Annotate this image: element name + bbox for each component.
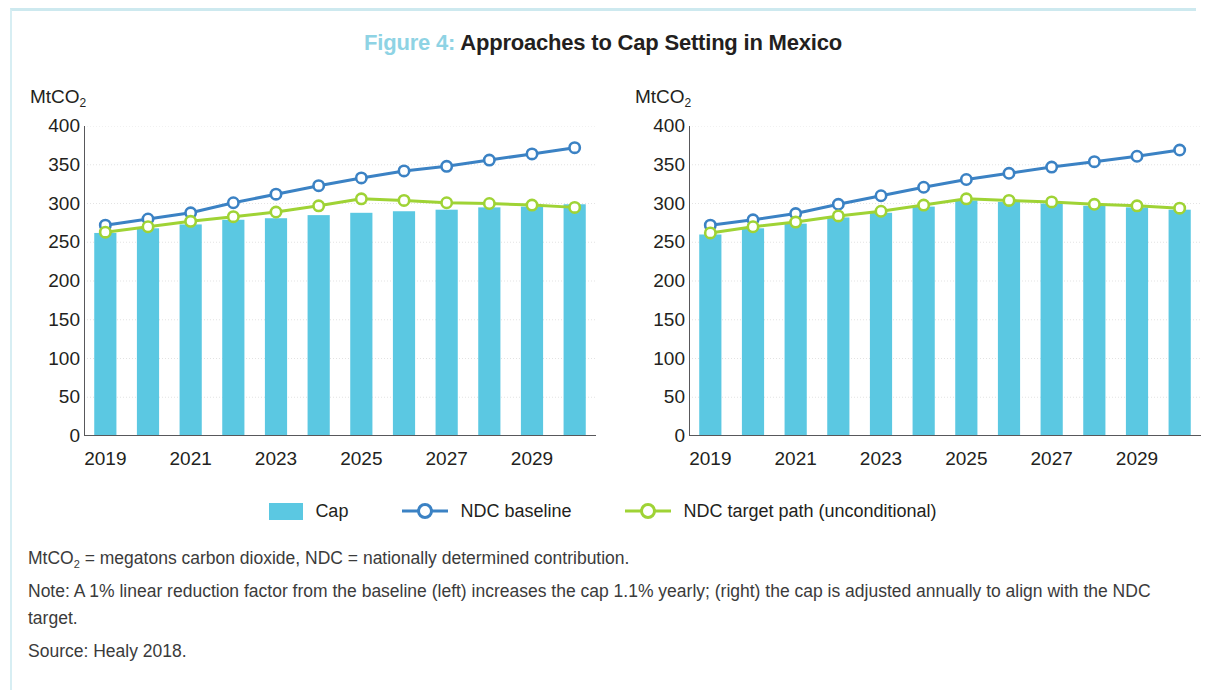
y-axis-unit-subscript-right: 2 xyxy=(685,96,692,110)
marker-point xyxy=(1132,201,1142,211)
y-tick-label: 250 xyxy=(653,231,685,253)
bar-2022 xyxy=(827,217,849,436)
bar-2028 xyxy=(478,207,500,436)
bar-2027 xyxy=(436,210,458,436)
chart-svg-right xyxy=(689,126,1201,436)
x-axis-tick-labels-right: 201920212023202520272029 xyxy=(689,448,1201,478)
marker-point xyxy=(833,211,843,221)
legend-label-cap: Cap xyxy=(315,501,348,522)
y-tick-label: 0 xyxy=(674,425,685,447)
x-tick-label: 2029 xyxy=(511,448,553,470)
marker-point xyxy=(961,194,971,204)
chart-legend: Cap NDC baseline NDC target path (uncond… xyxy=(0,494,1206,528)
marker-point xyxy=(1046,162,1056,172)
marker-point xyxy=(356,194,366,204)
y-tick-label: 350 xyxy=(48,154,80,176)
marker-point xyxy=(441,198,451,208)
y-tick-label: 150 xyxy=(48,309,80,331)
y-axis-unit-subscript-left: 2 xyxy=(80,96,87,110)
bar-2025 xyxy=(350,213,372,436)
chart-panel-right: MtCO2 050100150200250300350400 201920212… xyxy=(627,86,1206,476)
note-abbrev-subscript: 2 xyxy=(74,558,80,570)
x-tick-label: 2023 xyxy=(860,448,902,470)
y-tick-label: 250 xyxy=(48,231,80,253)
bar-2025 xyxy=(955,200,977,436)
bar-2021 xyxy=(785,224,807,436)
y-tick-label: 400 xyxy=(48,115,80,137)
plot-area-right xyxy=(689,126,1201,436)
marker-point xyxy=(961,174,971,184)
legend-label-ndc-target-path: NDC target path (unconditional) xyxy=(683,501,936,522)
marker-point xyxy=(228,198,238,208)
bar-2019 xyxy=(699,235,721,437)
marker-point xyxy=(569,202,579,212)
x-tick-label: 2027 xyxy=(426,448,468,470)
marker-point xyxy=(100,227,110,237)
bar-2021 xyxy=(180,224,202,436)
chart-panel-left: MtCO2 050100150200250300350400 201920212… xyxy=(22,86,602,476)
bar-2024 xyxy=(913,207,935,436)
y-tick-label: 0 xyxy=(69,425,80,447)
y-tick-label: 300 xyxy=(653,193,685,215)
bar-2019 xyxy=(94,233,116,436)
y-tick-label: 150 xyxy=(653,309,685,331)
marker-point xyxy=(1174,145,1184,155)
y-tick-label: 200 xyxy=(48,270,80,292)
marker-point xyxy=(1046,197,1056,207)
legend-label-ndc-baseline: NDC baseline xyxy=(460,501,571,522)
marker-point xyxy=(356,173,366,183)
x-axis-tick-labels-left: 201920212023202520272029 xyxy=(84,448,596,478)
x-tick-label: 2025 xyxy=(945,448,987,470)
bar-2030 xyxy=(564,204,586,436)
bar-2023 xyxy=(265,218,287,436)
marker-point xyxy=(1132,151,1142,161)
y-axis-unit-text-right: MtCO xyxy=(635,86,685,107)
marker-point xyxy=(705,228,715,238)
y-axis-tick-labels-left: 050100150200250300350400 xyxy=(22,126,80,436)
bar-2026 xyxy=(393,211,415,436)
marker-point xyxy=(1089,156,1099,166)
x-tick-label: 2029 xyxy=(1116,448,1158,470)
marker-point xyxy=(313,180,323,190)
plot-wrapper-right: 050100150200250300350400 201920212023202… xyxy=(627,126,1206,476)
figure-notes: MtCO2 = megatons carbon dioxide, NDC = n… xyxy=(28,545,1193,672)
y-axis-unit-label-right: MtCO2 xyxy=(635,86,691,108)
bar-2029 xyxy=(1126,207,1148,436)
marker-point xyxy=(918,200,928,210)
y-tick-label: 50 xyxy=(59,386,80,408)
y-axis-unit-label-left: MtCO2 xyxy=(30,86,86,108)
marker-point xyxy=(441,161,451,171)
note-source: Source: Healy 2018. xyxy=(28,638,1193,665)
marker-point xyxy=(790,217,800,227)
marker-point xyxy=(1004,168,1014,178)
bar-2020 xyxy=(742,228,764,436)
x-tick-label: 2021 xyxy=(775,448,817,470)
marker-point xyxy=(271,207,281,217)
bar-2022 xyxy=(222,220,244,436)
plot-area-left xyxy=(84,126,596,436)
marker-point xyxy=(876,206,886,216)
marker-point xyxy=(185,216,195,226)
bar-2030 xyxy=(1169,210,1191,436)
marker-point xyxy=(271,189,281,199)
y-tick-label: 100 xyxy=(653,348,685,370)
y-tick-label: 200 xyxy=(653,270,685,292)
chart-svg-left xyxy=(84,126,596,436)
bar-2023 xyxy=(870,213,892,436)
marker-point xyxy=(228,211,238,221)
marker-point xyxy=(527,149,537,159)
marker-point xyxy=(918,182,928,192)
legend-swatch-ndc-target-icon xyxy=(625,502,671,520)
bar-2024 xyxy=(308,215,330,436)
marker-point xyxy=(569,143,579,153)
x-tick-label: 2019 xyxy=(84,448,126,470)
marker-point xyxy=(748,222,758,232)
figure-title: Figure 4: Approaches to Cap Setting in M… xyxy=(0,30,1206,56)
figure-title-text: Approaches to Cap Setting in Mexico xyxy=(460,30,842,55)
marker-point xyxy=(484,198,494,208)
x-tick-label: 2021 xyxy=(170,448,212,470)
marker-point xyxy=(1174,203,1184,213)
note-abbreviations: MtCO2 = megatons carbon dioxide, NDC = n… xyxy=(28,545,1193,572)
marker-point xyxy=(143,222,153,232)
legend-swatch-cap-icon xyxy=(269,503,303,520)
